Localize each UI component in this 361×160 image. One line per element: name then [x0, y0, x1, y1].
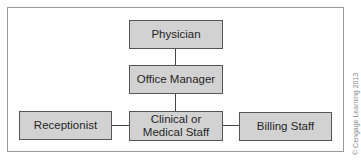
copyright-notice: © Cengage Learning 2013	[352, 73, 359, 155]
node-clinical-label-line1: Clinical or	[151, 113, 202, 126]
node-receptionist: Receptionist	[19, 111, 112, 140]
node-office-manager-label: Office Manager	[137, 73, 215, 86]
node-physician: Physician	[129, 20, 223, 49]
connector-physician-office-manager	[175, 49, 176, 65]
node-office-manager: Office Manager	[129, 65, 223, 94]
node-billing-staff-label: Billing Staff	[257, 120, 314, 133]
node-billing-staff: Billing Staff	[239, 112, 332, 141]
node-clinical-label-line2: Medical Staff	[143, 126, 209, 139]
connector-clinical-billing	[223, 125, 239, 126]
node-physician-label: Physician	[151, 28, 200, 41]
node-receptionist-label: Receptionist	[34, 119, 97, 132]
node-clinical-medical-staff: Clinical or Medical Staff	[129, 111, 223, 141]
connector-receptionist-clinical	[112, 125, 129, 126]
connector-office-manager-clinical	[175, 94, 176, 111]
